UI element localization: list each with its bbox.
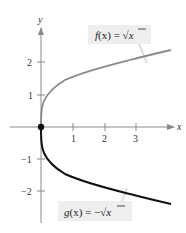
y-tick-label-2: 2 [27,57,32,68]
y-tick-label-1: 1 [28,90,33,101]
f-leader-line [139,44,147,63]
y-tick-label-m2: −2 [21,186,32,197]
g-leader-line [122,188,127,201]
g-equation-label: g(x) = −√x [64,206,111,219]
x-tick-label-3: 3 [133,133,138,144]
x-tick-label-1: 1 [71,133,76,144]
x-axis-label: x [176,121,182,132]
graph-canvas: 1 2 3 2 1 −1 −2 x y f(x) = √x g(x) = −√x [0,0,186,233]
f-curve [41,50,171,127]
y-axis-label: y [37,14,43,25]
f-equation-label: f(x) = √x [95,29,134,42]
origin-point [38,124,44,130]
y-tick-label-m1: −1 [21,154,32,165]
x-tick-label-2: 2 [102,133,107,144]
